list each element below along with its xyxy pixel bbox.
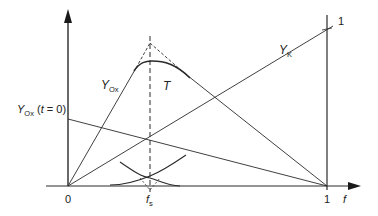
dashed-apex-left xyxy=(136,43,150,68)
y-ox-t0-sub: Ox xyxy=(24,109,34,118)
fs-sub: s xyxy=(149,199,153,208)
y-ox-t0-label: YOx (t = 0) xyxy=(17,104,66,115)
y-axis-arrow-icon xyxy=(64,9,72,23)
y-ox-label: YOx xyxy=(101,79,119,91)
y-ox-t0-line xyxy=(68,119,327,186)
x-axis-arrow-icon xyxy=(348,182,361,190)
t-label: T xyxy=(163,80,170,92)
y-ox-falling-line xyxy=(183,72,327,186)
y-ox-sub: Ox xyxy=(109,85,119,94)
y-k-sub: K xyxy=(287,50,292,59)
y-ox-t0-eq: = 0) xyxy=(44,103,66,115)
t-curve xyxy=(134,61,190,78)
lower-curve-left xyxy=(110,155,186,185)
y-k-main: Y xyxy=(279,43,287,57)
fs-tick-label: fs xyxy=(146,194,153,205)
y-ox-main: Y xyxy=(101,78,109,92)
y-k-line xyxy=(68,26,333,186)
y-ox-t0-paren: ( xyxy=(34,103,41,115)
f-axis-label: f xyxy=(343,194,346,205)
one-y-label: 1 xyxy=(338,16,344,27)
y-k-label: YK xyxy=(279,44,292,56)
one-x-tick-label: 1 xyxy=(324,194,330,205)
origin-tick-label: 0 xyxy=(65,194,71,205)
